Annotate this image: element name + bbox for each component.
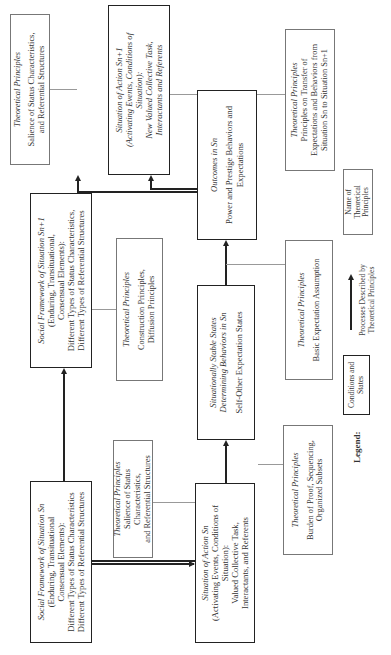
box-line: Expectations and Behaviors from — [310, 44, 320, 156]
box-line: Interactants, and Referents — [240, 517, 250, 609]
connector-outcomes-to-sn1 — [150, 180, 152, 190]
arrowhead — [148, 175, 154, 181]
connector-sf-n-to-sf-n1 — [63, 374, 65, 481]
box-line: Situation): — [220, 545, 230, 581]
box-line: New Valued Collective Task, — [144, 41, 154, 139]
box-line: Theoretical Principles — [354, 174, 371, 230]
situation-action-sn-box: Situation of Action Sn (Activating Event… — [195, 483, 255, 643]
connector-sf-n1-to-sn1 — [77, 180, 79, 193]
box-line: Processes Described by — [358, 255, 367, 345]
legend-conditions-box: Conditions and States — [343, 355, 370, 415]
box-line: Construction Principles, — [137, 269, 147, 350]
box-line: Situation Sn to Situation Sn+1 — [320, 49, 330, 151]
box-line: Organized Subsets — [315, 459, 325, 521]
connector-outcomes-to-sf-n1 — [96, 191, 197, 193]
theory-diagram: Social Framework of Situation Sn (Enduri… — [0, 0, 391, 655]
situation-action-sn-title: Situation of Action Sn — [200, 525, 210, 600]
box-line: Theoretical Principles — [367, 255, 376, 345]
box-line: Different Types of Referential Structure… — [76, 492, 86, 632]
connector-outcomes-up — [150, 188, 197, 190]
box-line: Different Types of Status Characteristic… — [66, 210, 76, 352]
connector-stable-to-outcomes — [225, 246, 227, 285]
box-line: Situation): — [134, 72, 144, 109]
legend-label: Legend: — [352, 432, 362, 464]
arrowhead — [348, 274, 354, 280]
box-line: (Activating Events, Conditions of — [210, 505, 220, 621]
tp-heading: Theoretical Principles — [113, 462, 123, 537]
stable-states-box: Situationally Stable States Determining … — [197, 285, 255, 440]
leader-salience-top — [50, 89, 77, 90]
box-line: Different Types of Referential Structure… — [76, 210, 86, 350]
situation-action-sn1-title: Situation of Action Sn+1 — [114, 47, 124, 132]
box-line: Self-Other Expectation States — [234, 311, 244, 413]
social-framework-sn1-box: Social Framework of Situation Sn+1 (Endu… — [30, 193, 92, 368]
box-line: Salience of Status Characteristics, — [27, 33, 37, 147]
social-framework-sn-box: Social Framework of Situation Sn (Enduri… — [30, 481, 92, 643]
arrowhead — [223, 240, 229, 246]
box-line: Consensual Elements): — [56, 241, 66, 320]
legend-process-arrow — [350, 280, 352, 330]
box-line: Different Types of Status Characteristic… — [66, 492, 76, 631]
box-line: Consensual Elements): — [56, 523, 66, 602]
box-line: (Enduring, Transituational — [46, 517, 56, 608]
box-line: Power and Prestige Behaviors and — [224, 106, 234, 224]
box-line: Interactants and Referents — [154, 45, 164, 136]
outcomes-sn-title: Outcomes in Sn — [209, 138, 219, 192]
arrowhead — [61, 368, 67, 374]
tp-heading: Theoretical Principles — [13, 52, 23, 127]
box-line: Burden of Proof, Sequencing, — [306, 440, 316, 540]
box-line: Basic Expectation Assumption — [312, 259, 322, 362]
box-line: and Referential Structures — [37, 46, 47, 133]
tp-burden-box: Theoretical Principles Burden of Proof, … — [283, 425, 333, 555]
tp-construction-box: Theoretical Principles Construction Prin… — [116, 238, 163, 381]
box-line: (Activating Events, Conditions of — [124, 33, 134, 147]
outcomes-sn-box: Outcomes in Sn Power and Prestige Behavi… — [197, 90, 257, 240]
tp-transfer-box: Theoretical Principles Principles on Tra… — [285, 29, 335, 171]
stable-states-title: Determining Behaviors in Sn — [218, 313, 228, 413]
leader-burden — [258, 464, 283, 465]
social-framework-sn1-title: Social Framework of Situation Sn+1 — [36, 217, 46, 344]
box-line: Diffusion Principles — [147, 276, 157, 344]
social-framework-sn-title: Social Framework of Situation Sn — [36, 504, 46, 621]
connector-sf-n-down — [92, 563, 194, 565]
tp-basic-expectation-box: Theoretical Principles Basic Expectation… — [285, 240, 333, 380]
box-line: States — [357, 376, 366, 394]
tp-heading: Theoretical Principles — [290, 63, 300, 138]
box-line: (Enduring, Transituational, — [46, 234, 56, 327]
tp-heading: Theoretical Principles — [291, 453, 301, 528]
arrowhead — [75, 175, 81, 181]
connector-situation-to-stable — [225, 446, 227, 483]
tp-salience-top-box: Theoretical Principles Salience of Statu… — [10, 14, 50, 165]
legend-processes-text: Processes Described by Theoretical Princ… — [358, 255, 376, 345]
box-line: and Referential Structures — [143, 455, 153, 542]
box-line: Expectations — [235, 143, 245, 187]
box-line: Principles on Transfer of — [300, 58, 310, 141]
tp-salience-bottom-box: Theoretical Principles Salience of Statu… — [113, 440, 153, 558]
stable-states-title: Situationally Stable States — [208, 317, 218, 407]
box-line: Valued Collective Task, — [230, 522, 240, 604]
tp-heading: Theoretical Principles — [297, 273, 307, 348]
box-line: Salience of Status Characteristics, — [123, 445, 143, 553]
legend-name-box: Name of Theoretical Principles — [343, 169, 373, 235]
situation-action-sn1-box: Situation of Action Sn+1 (Activating Eve… — [108, 5, 170, 175]
leader-basic — [226, 264, 285, 265]
arrowhead — [223, 440, 229, 446]
tp-heading: Theoretical Principles — [122, 272, 132, 347]
